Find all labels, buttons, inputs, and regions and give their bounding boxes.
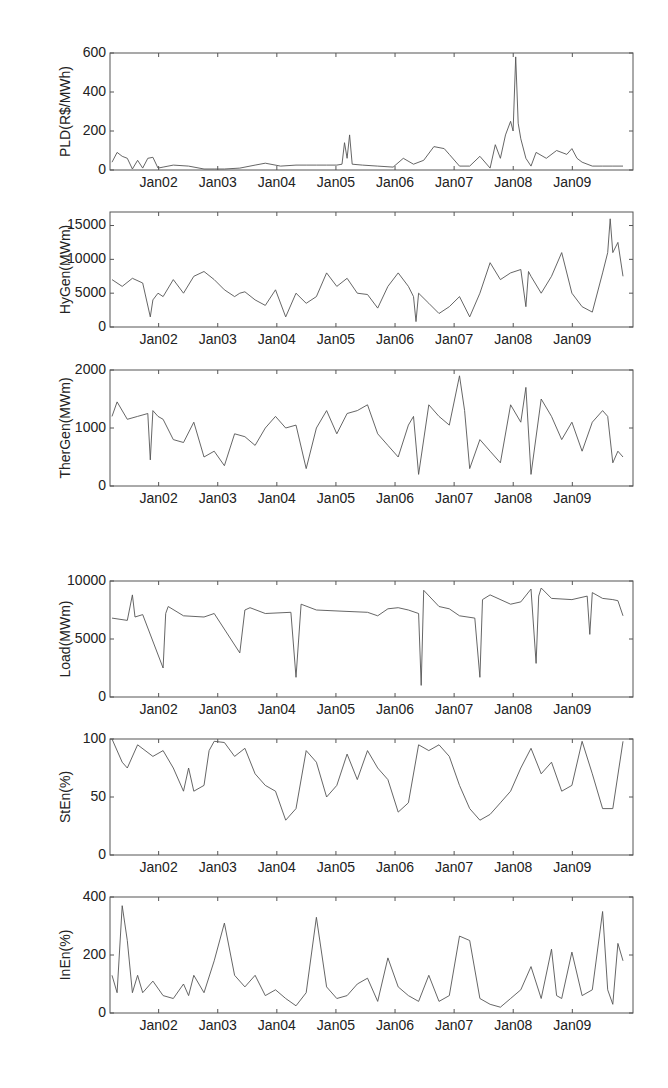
panel-thergen: 010002000Jan02Jan03Jan04Jan05Jan06Jan07J… bbox=[57, 361, 633, 506]
xtick-label: Jan06 bbox=[376, 701, 414, 717]
ytick-label: 0 bbox=[98, 161, 106, 177]
xtick-label: Jan05 bbox=[317, 490, 355, 506]
xtick-label: Jan09 bbox=[553, 1017, 591, 1033]
ytick-label: 0 bbox=[98, 477, 106, 493]
panel-hygen: 050001000015000Jan02Jan03Jan04Jan05Jan06… bbox=[57, 212, 633, 347]
xtick-label: Jan08 bbox=[494, 1017, 532, 1033]
ytick-label: 1000 bbox=[75, 419, 106, 435]
xtick-label: Jan06 bbox=[376, 174, 414, 190]
xtick-label: Jan05 bbox=[317, 331, 355, 347]
series-line bbox=[112, 588, 623, 685]
ytick-label: 5000 bbox=[75, 630, 106, 646]
xtick-label: Jan05 bbox=[317, 174, 355, 190]
xtick-label: Jan07 bbox=[435, 174, 473, 190]
xtick-label: Jan09 bbox=[553, 174, 591, 190]
xtick-label: Jan08 bbox=[494, 701, 532, 717]
xtick-label: Jan03 bbox=[199, 1017, 237, 1033]
xtick-label: Jan05 bbox=[317, 701, 355, 717]
xtick-label: Jan02 bbox=[140, 859, 178, 875]
ytick-label: 200 bbox=[83, 122, 107, 138]
ytick-label: 10000 bbox=[67, 572, 106, 588]
chart-figure: 0200400600Jan02Jan03Jan04Jan05Jan06Jan07… bbox=[0, 0, 668, 1088]
xtick-label: Jan06 bbox=[376, 490, 414, 506]
panel-load: 0500010000Jan02Jan03Jan04Jan05Jan06Jan07… bbox=[57, 572, 633, 717]
xtick-label: Jan03 bbox=[199, 859, 237, 875]
xtick-label: Jan07 bbox=[435, 490, 473, 506]
y-axis-label: HyGen(MWm) bbox=[57, 225, 73, 314]
xtick-label: Jan03 bbox=[199, 174, 237, 190]
xtick-label: Jan09 bbox=[553, 331, 591, 347]
xtick-label: Jan04 bbox=[258, 490, 296, 506]
ytick-label: 0 bbox=[98, 1004, 106, 1020]
ytick-label: 600 bbox=[83, 44, 107, 60]
ytick-label: 400 bbox=[83, 83, 107, 99]
xtick-label: Jan03 bbox=[199, 331, 237, 347]
xtick-label: Jan06 bbox=[376, 859, 414, 875]
y-axis-label: Load(MWm) bbox=[57, 600, 73, 677]
xtick-label: Jan05 bbox=[317, 1017, 355, 1033]
ytick-label: 0 bbox=[98, 688, 106, 704]
xtick-label: Jan04 bbox=[258, 174, 296, 190]
series-line bbox=[112, 57, 623, 169]
xtick-label: Jan06 bbox=[376, 331, 414, 347]
xtick-label: Jan09 bbox=[553, 701, 591, 717]
xtick-label: Jan02 bbox=[140, 174, 178, 190]
panel-inen: 0200400Jan02Jan03Jan04Jan05Jan06Jan07Jan… bbox=[57, 888, 633, 1033]
xtick-label: Jan08 bbox=[494, 174, 532, 190]
ytick-label: 0 bbox=[98, 318, 106, 334]
xtick-label: Jan04 bbox=[258, 331, 296, 347]
axes-box bbox=[110, 370, 633, 486]
xtick-label: Jan08 bbox=[494, 859, 532, 875]
ytick-label: 0 bbox=[98, 846, 106, 862]
xtick-label: Jan04 bbox=[258, 1017, 296, 1033]
xtick-label: Jan07 bbox=[435, 1017, 473, 1033]
xtick-label: Jan02 bbox=[140, 701, 178, 717]
ytick-label: 50 bbox=[90, 788, 106, 804]
series-line bbox=[112, 906, 623, 1008]
xtick-label: Jan05 bbox=[317, 859, 355, 875]
ytick-label: 5000 bbox=[75, 284, 106, 300]
xtick-label: Jan06 bbox=[376, 1017, 414, 1033]
xtick-label: Jan02 bbox=[140, 490, 178, 506]
xtick-label: Jan02 bbox=[140, 1017, 178, 1033]
xtick-label: Jan07 bbox=[435, 331, 473, 347]
xtick-label: Jan03 bbox=[199, 701, 237, 717]
xtick-label: Jan09 bbox=[553, 859, 591, 875]
y-axis-label: InEn(%) bbox=[57, 930, 73, 981]
y-axis-label: TherGen(MWm) bbox=[57, 377, 73, 478]
xtick-label: Jan02 bbox=[140, 331, 178, 347]
ytick-label: 2000 bbox=[75, 361, 106, 377]
series-line bbox=[112, 219, 623, 322]
ytick-label: 200 bbox=[83, 946, 107, 962]
xtick-label: Jan07 bbox=[435, 859, 473, 875]
xtick-label: Jan08 bbox=[494, 331, 532, 347]
xtick-label: Jan04 bbox=[258, 701, 296, 717]
y-axis-label: StEn(%) bbox=[57, 771, 73, 823]
series-line bbox=[112, 376, 623, 475]
axes-box bbox=[110, 739, 633, 855]
xtick-label: Jan04 bbox=[258, 859, 296, 875]
panel-sten: 050100Jan02Jan03Jan04Jan05Jan06Jan07Jan0… bbox=[57, 730, 633, 875]
series-line bbox=[112, 739, 623, 820]
ytick-label: 100 bbox=[83, 730, 107, 746]
panel-pld: 0200400600Jan02Jan03Jan04Jan05Jan06Jan07… bbox=[57, 44, 633, 190]
y-axis-label: PLD(R$/MWh) bbox=[57, 66, 73, 157]
xtick-label: Jan03 bbox=[199, 490, 237, 506]
xtick-label: Jan09 bbox=[553, 490, 591, 506]
xtick-label: Jan07 bbox=[435, 701, 473, 717]
ytick-label: 400 bbox=[83, 888, 107, 904]
xtick-label: Jan08 bbox=[494, 490, 532, 506]
